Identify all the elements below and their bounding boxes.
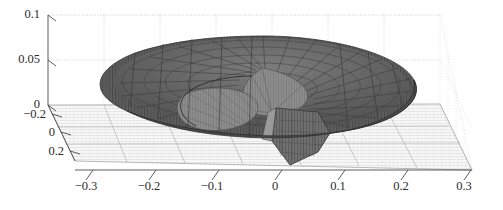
- y-tick-label-1: 0: [10, 126, 55, 139]
- y-tick-label-0: −0.2: [0, 108, 46, 121]
- x-tick-label-4: 0.1: [312, 180, 364, 193]
- x-tick-label-6: 0.3: [438, 180, 490, 193]
- x-tick-label-1: −0.2: [123, 180, 175, 193]
- z-tick-label-0: 0.1: [2, 8, 40, 21]
- surface-plot-figure: 0.1 0.05 0 −0.2 0 0.2 −0.3 −0.2 −0.1 0 0…: [0, 0, 503, 210]
- z-tick-label-1: 0.05: [0, 53, 40, 66]
- x-tick-label-2: −0.1: [186, 180, 238, 193]
- x-tick-label-0: −0.3: [60, 180, 112, 193]
- x-tick-label-5: 0.2: [375, 180, 427, 193]
- y-tick-label-2: 0.2: [12, 145, 64, 158]
- x-tick-label-3: 0: [249, 180, 301, 193]
